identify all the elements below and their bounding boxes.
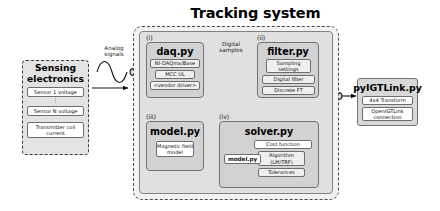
sensing-electronics-title: Sensing electronics — [24, 63, 87, 84]
filter-module-title: filter.py — [257, 46, 319, 57]
sensing-title-line1: Sensing — [24, 63, 87, 74]
daq-module-title: daq.py — [146, 46, 204, 57]
module-index-i: (i) — [146, 34, 153, 41]
module-index-iii: (iii) — [146, 113, 156, 120]
pyigtlink-item-openigtlink-connection: OpenIGTLink connection — [362, 107, 413, 121]
filter-item-digital-filter: Digital filter — [262, 75, 315, 84]
solver-item-cost-function: Cost function — [254, 140, 312, 149]
sensing-title-line2: electronics — [24, 74, 87, 85]
model-item-magnetic-field-model: Magnetic field model — [156, 141, 194, 157]
digital-label-line2: samples — [211, 47, 251, 53]
model-module-title: model.py — [146, 126, 204, 137]
pyigtlink-item-transform: 4x4 Transform — [362, 96, 413, 105]
diagram-canvas: Tracking system Sensing electronics Sens… — [0, 0, 440, 211]
solver-item-tolerances: Tolerances — [258, 168, 305, 177]
filter-item-sampling-settings: Sampling settings — [266, 59, 311, 73]
transmitter-coil-current-chip: Transmitter coil current — [27, 122, 84, 138]
page-title: Tracking system — [168, 5, 343, 21]
digital-samples-label: Digital samples — [211, 41, 251, 54]
sensor-n-voltage-chip: Sensor N voltage — [27, 106, 84, 116]
analog-signals-label: Analog signals — [95, 45, 133, 58]
solver-item-algorithm: Algorithm (LM/TRF) — [258, 151, 305, 166]
filter-item-discrete-ft: Discrete FT — [262, 86, 315, 95]
solver-module-title: solver.py — [219, 126, 319, 137]
daq-item-ni-daqmx: NI-DAQmx/Base — [150, 59, 200, 68]
analog-wave-icon — [97, 62, 127, 83]
solver-embedded-model-chip: model.py — [224, 154, 261, 164]
analog-label-line2: signals — [95, 51, 133, 57]
daq-item-vendor-driver: <vendor driver> — [150, 81, 200, 90]
pyigtlink-module-title: pyIGTLink.py — [352, 82, 423, 93]
daq-item-mcc-ul: MCC UL — [155, 70, 195, 79]
module-index-ii: (ii) — [257, 34, 265, 41]
module-index-iv: (iv) — [219, 113, 229, 120]
